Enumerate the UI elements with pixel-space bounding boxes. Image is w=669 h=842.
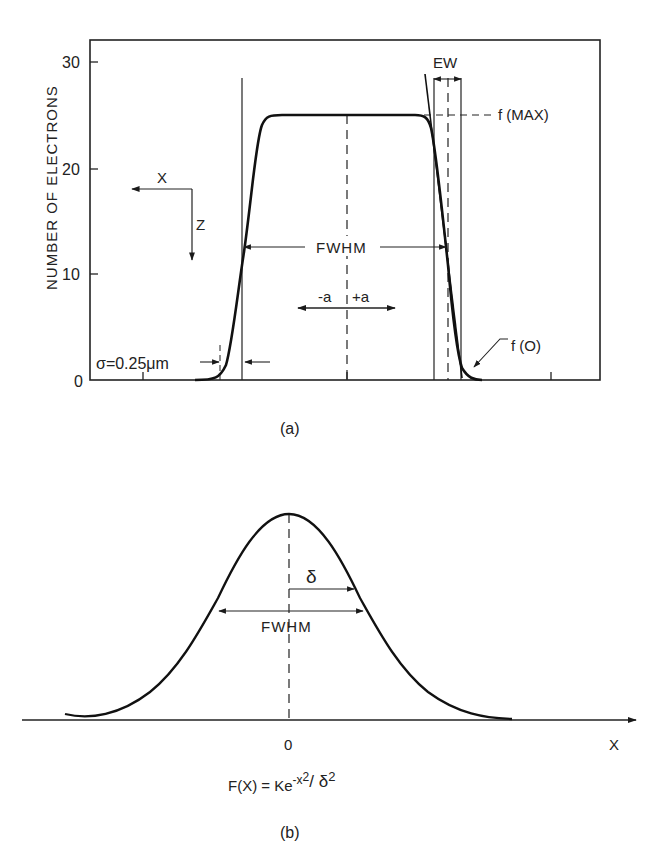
ew-label: EW: [433, 54, 458, 71]
y-tick-0: 0: [74, 373, 83, 390]
sigma-label: σ=0.25μm: [96, 355, 169, 372]
panel-b: X 0 δ FWHM F(X) = Ke-x2/ δ2 (b): [22, 514, 636, 841]
gaussian-formula: F(X) = Ke-x2/ δ2: [228, 769, 335, 794]
xz-orientation-icon: [132, 189, 192, 260]
svg-text:F(X) = Ke-x2/ δ2: F(X) = Ke-x2/ δ2: [228, 769, 335, 794]
caption-a: (a): [280, 420, 300, 437]
formula-square-2: 2: [328, 769, 335, 784]
delta-label: δ: [306, 566, 317, 587]
axis-x-label: X: [157, 169, 167, 186]
formula-exponent: -x: [293, 773, 303, 787]
origin-label-b: 0: [284, 736, 292, 753]
formula-lhs: F(X) = Ke: [228, 777, 293, 794]
fzero-label: f (O): [511, 337, 541, 354]
y-tick-30: 30: [62, 54, 80, 71]
fwhm-label-b: FWHM: [261, 618, 312, 635]
y-axis-ticks: [90, 62, 98, 274]
y-tick-10: 10: [62, 266, 80, 283]
y-axis-label: NUMBER OF ELECTRONS: [43, 85, 60, 290]
y-tick-20: 20: [62, 161, 80, 178]
tangent-line: [425, 74, 462, 378]
fmax-label: f (MAX): [498, 106, 549, 123]
minus-a-label: -a: [318, 288, 332, 305]
formula-divisor: / δ: [309, 772, 328, 791]
axis-z-label: Z: [196, 216, 205, 233]
plot-frame: [90, 40, 600, 380]
figure-canvas: 30 20 10 0 NUMBER OF ELECTRONS X Z f (MA…: [0, 0, 669, 842]
caption-b: (b): [280, 824, 300, 841]
fzero-leader-arrow: [474, 339, 508, 367]
panel-a: 30 20 10 0 NUMBER OF ELECTRONS X Z f (MA…: [43, 40, 600, 437]
fwhm-label-a: FWHM: [316, 239, 367, 256]
plus-a-label: +a: [352, 288, 370, 305]
x-axis-label-b: X: [609, 736, 619, 753]
